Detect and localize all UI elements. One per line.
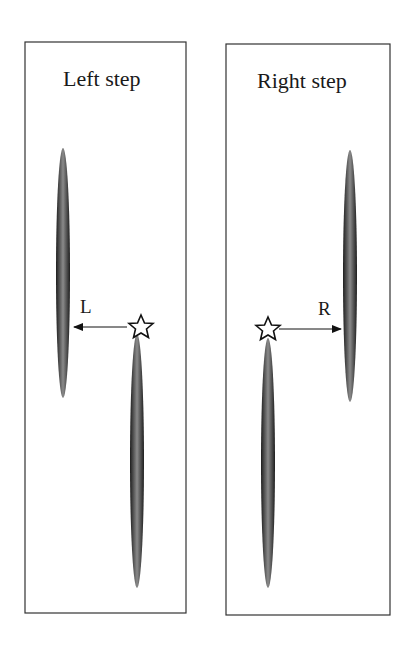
star-icon <box>256 317 280 340</box>
left-step-title: Left step <box>63 66 141 92</box>
right-foot-lower <box>130 334 144 588</box>
left-arrow-label: L <box>80 296 92 318</box>
right-step-title: Right step <box>257 68 347 94</box>
right-arrow-label: R <box>318 298 331 320</box>
right-foot-upper <box>343 150 357 402</box>
left-foot-lower <box>261 338 275 588</box>
star-icon <box>129 315 153 338</box>
left-foot-upper <box>56 148 70 398</box>
step-diagram <box>0 0 419 646</box>
